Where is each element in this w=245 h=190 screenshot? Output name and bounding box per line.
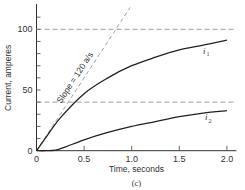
x-tick-label: 0 [34,154,39,164]
y-axis-title: Current, amperes [3,45,13,111]
figure-caption: (c) [132,178,142,188]
label-i2-subscript: 2 [209,118,212,124]
slope-line [37,7,131,150]
y-tick-label: 50 [22,85,32,95]
y-tick-label: 100 [17,24,32,34]
y-tick-label: 0 [27,146,32,156]
curve-i2 [37,111,227,151]
axes [37,4,237,151]
x-tick-label: 0.5 [78,154,91,164]
labels: 05010000.51.01.52.0Time, secondsCurrent,… [3,24,233,188]
chart: 05010000.51.01.52.0Time, secondsCurrent,… [0,0,245,190]
x-tick-label: 1.5 [173,154,186,164]
x-tick-label: 1.0 [125,154,138,164]
slope-label: Slope = 120 a/s [54,50,95,105]
x-tick-label: 2.0 [221,154,234,164]
x-axis-title: Time, seconds [109,164,164,174]
reference-lines [37,7,237,150]
label-i1-subscript: 1 [207,51,210,57]
